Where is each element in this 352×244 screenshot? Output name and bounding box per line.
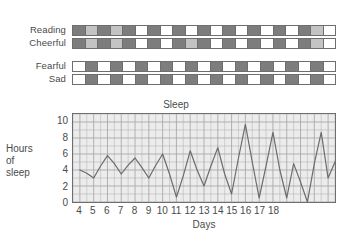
x-axis-title: Days	[72, 219, 336, 230]
strip-cell	[223, 75, 236, 84]
strip-cell	[186, 26, 199, 35]
strip-cell	[161, 75, 174, 84]
strip-cell	[98, 62, 111, 71]
strip-cell	[86, 26, 99, 35]
strip-cell	[274, 39, 287, 48]
sleep-tracking-figure: Reading Cheerful Fearful Sad Sleep Hours…	[0, 0, 352, 244]
x-axis-tick-label: 4	[76, 205, 82, 216]
y-axis-tick-label: 4	[62, 165, 68, 175]
y-axis-title-line-1: Hours	[6, 143, 50, 155]
strip-row-fearful: Fearful	[72, 61, 336, 72]
strip-cell	[248, 39, 261, 48]
strip-cell	[286, 62, 299, 71]
strip-cell	[261, 75, 274, 84]
x-axis-tick-label: 17	[254, 205, 265, 216]
strip-cell	[311, 75, 324, 84]
x-axis-tick-label: 10	[157, 205, 168, 216]
strip-cell	[261, 26, 274, 35]
strip-cell	[161, 62, 174, 71]
sleep-hours-line	[80, 124, 335, 202]
strip-cell	[223, 62, 236, 71]
strip-row-reading: Reading	[72, 25, 336, 36]
strip-cell	[236, 26, 249, 35]
strip-cell	[211, 39, 224, 48]
strip-cell	[73, 75, 86, 84]
strip-cell	[86, 62, 99, 71]
strip-cell	[123, 62, 136, 71]
strip-cell	[274, 62, 287, 71]
x-axis-tick-label: 9	[146, 205, 152, 216]
x-axis-tick-labels: 456789101112131415161718	[72, 205, 336, 217]
strip-cell	[198, 26, 211, 35]
x-axis-tick-label: 8	[132, 205, 138, 216]
strip-cell	[161, 26, 174, 35]
strip-cell	[198, 39, 211, 48]
strip-cell	[223, 26, 236, 35]
x-axis-tick-label: 5	[90, 205, 96, 216]
strip-cell	[86, 75, 99, 84]
strip-cell	[198, 75, 211, 84]
strip-cell	[211, 62, 224, 71]
chart-title: Sleep	[0, 99, 352, 110]
y-axis-title-line-3: sleep	[6, 167, 50, 179]
strip-row-sad: Sad	[72, 74, 336, 85]
strip-cell	[248, 62, 261, 71]
strip-label-sad: Sad	[49, 73, 66, 84]
strip-cell	[286, 75, 299, 84]
y-axis-tick-label: 0	[62, 198, 68, 208]
strip-cell	[73, 39, 86, 48]
plot-svg	[73, 114, 335, 202]
sleep-line-chart	[72, 113, 336, 203]
strip-cell	[161, 39, 174, 48]
strip-cell	[186, 39, 199, 48]
x-axis-tick-label: 11	[171, 205, 181, 216]
strip-cell	[248, 26, 261, 35]
strip-cell	[324, 62, 336, 71]
y-axis-tick-labels: 0246810	[46, 113, 70, 203]
strip-cell	[236, 62, 249, 71]
y-axis-tick-label: 2	[62, 182, 68, 192]
strip-cell	[324, 26, 336, 35]
strip-cell	[123, 39, 136, 48]
strip-row-cheerful: Cheerful	[72, 38, 336, 49]
strip-cell	[324, 75, 336, 84]
strip-cell	[311, 26, 324, 35]
strip-cell	[173, 75, 186, 84]
strip-label-cheerful: Cheerful	[29, 37, 66, 48]
strip-cell	[211, 75, 224, 84]
strip-cell	[299, 26, 312, 35]
strip-cell	[311, 39, 324, 48]
strip-cell	[223, 39, 236, 48]
strip-cell	[248, 75, 261, 84]
y-axis-title: Hours of sleep	[6, 143, 50, 179]
strip-cell	[148, 26, 161, 35]
strip-cell	[311, 62, 324, 71]
x-axis-tick-label: 6	[104, 205, 110, 216]
strip-cells-fearful	[72, 61, 336, 72]
strip-cell	[198, 62, 211, 71]
strip-cell	[186, 62, 199, 71]
strip-cell	[73, 26, 86, 35]
strip-cell	[299, 75, 312, 84]
strip-cell	[98, 26, 111, 35]
strip-cells-cheerful	[72, 38, 336, 49]
strip-cell	[261, 62, 274, 71]
strip-cell	[136, 26, 149, 35]
strip-cell	[123, 26, 136, 35]
strip-cell	[211, 26, 224, 35]
strip-cell	[136, 62, 149, 71]
x-axis-tick-label: 15	[226, 205, 237, 216]
y-axis-tick-label: 8	[62, 133, 68, 143]
strip-cell	[173, 62, 186, 71]
strip-cell	[123, 75, 136, 84]
strip-cell	[236, 75, 249, 84]
strip-cells-sad	[72, 74, 336, 85]
plot-area	[72, 113, 336, 203]
strip-cell	[286, 26, 299, 35]
strip-cell	[286, 39, 299, 48]
x-axis-tick-label: 16	[240, 205, 251, 216]
strip-label-fearful: Fearful	[36, 60, 66, 71]
x-axis-tick-label: 18	[268, 205, 279, 216]
strip-cell	[98, 39, 111, 48]
strip-cell	[173, 39, 186, 48]
